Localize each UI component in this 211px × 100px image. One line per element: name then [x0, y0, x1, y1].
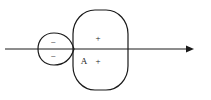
- orbital-diagram: − − + + A: [0, 0, 211, 100]
- small-lobe-sign-top: −: [50, 37, 55, 47]
- large-lobe-sign-top: +: [95, 33, 100, 43]
- label-a: A: [81, 56, 88, 66]
- large-lobe: [73, 10, 128, 90]
- large-lobe-sign-bottom: +: [95, 56, 100, 66]
- axis-arrow-icon: [186, 46, 194, 53]
- small-lobe-sign-bottom: −: [50, 51, 55, 61]
